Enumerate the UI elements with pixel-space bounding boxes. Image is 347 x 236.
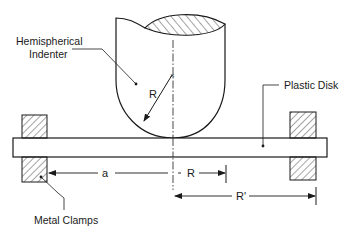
- dimension-R-prime-label: R': [236, 190, 246, 202]
- center-mark: ×: [170, 71, 175, 80]
- disk-label: Plastic Disk: [284, 79, 339, 91]
- plastic-disk: [13, 138, 327, 157]
- clamps-label: Metal Clamps: [34, 214, 98, 226]
- dimension-R-prime: R': [175, 187, 316, 205]
- indentation-diagram: R × a R R' Hemispherical Indenter Pl: [0, 0, 347, 236]
- clamps-callout: Metal Clamps: [34, 176, 98, 226]
- dimension-a-label: a: [102, 167, 109, 179]
- indenter-section-hatch: [145, 15, 225, 36]
- dimension-a-R: a R: [49, 165, 226, 183]
- indenter-callout: Hemispherical Indenter: [16, 35, 137, 85]
- radius-arrow: R ×: [144, 71, 175, 121]
- radius-label: R: [149, 88, 157, 100]
- indenter-label-line1: Hemispherical: [16, 35, 83, 47]
- dimension-R-label: R: [187, 167, 195, 179]
- indenter-label-line2: Indenter: [29, 48, 68, 60]
